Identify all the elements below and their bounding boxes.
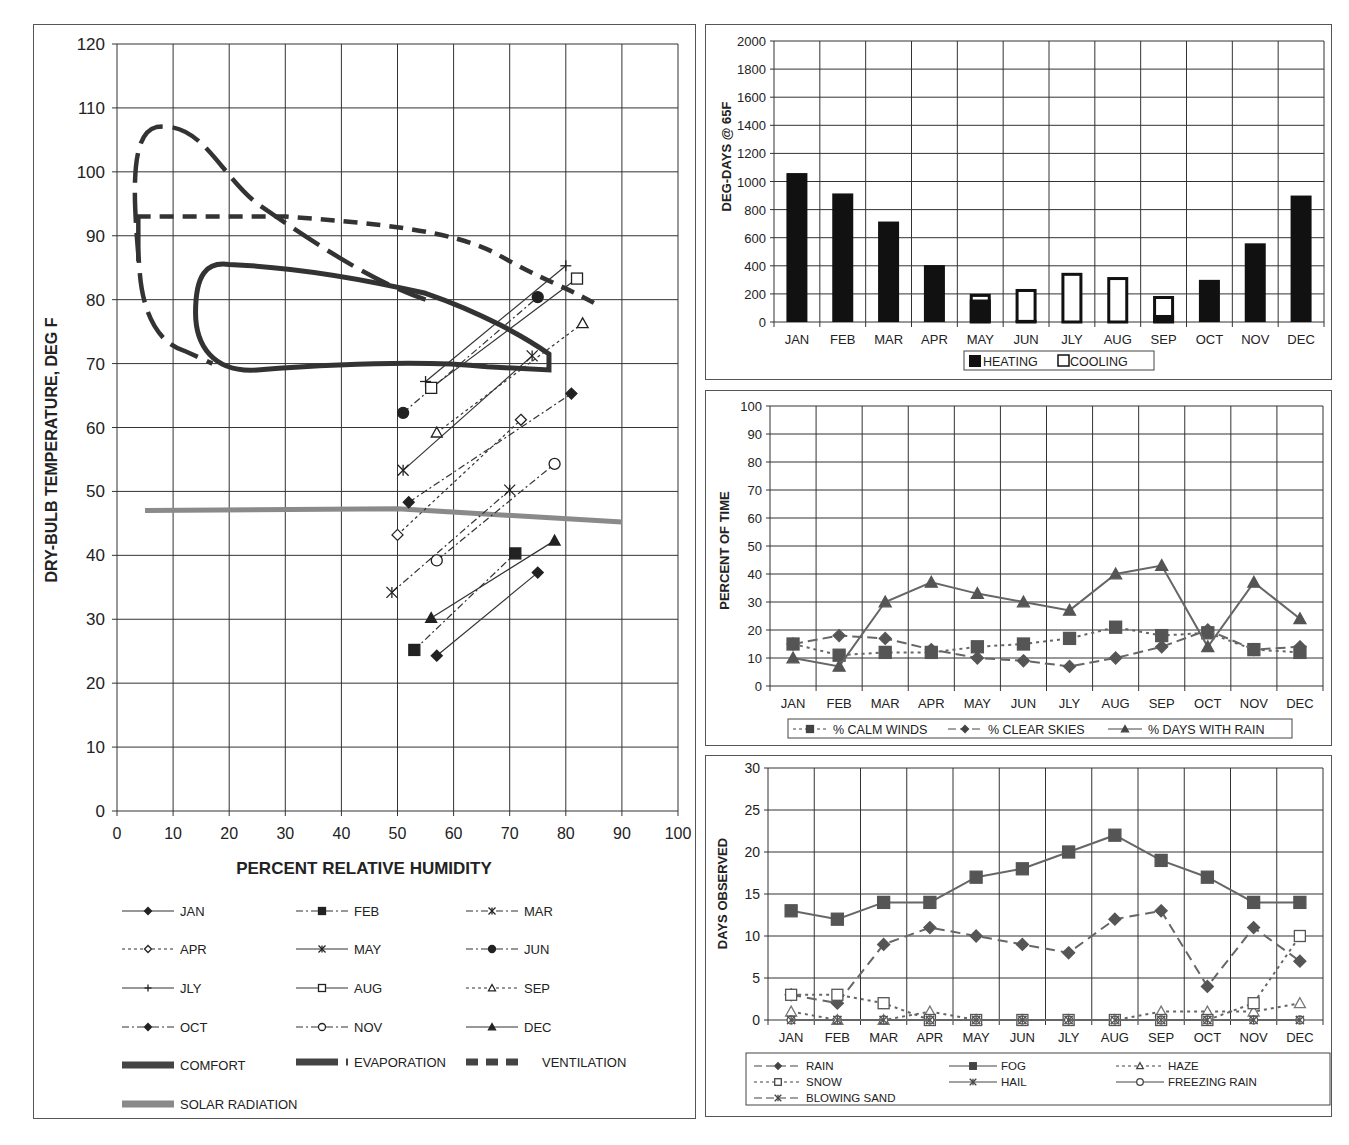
y-tick-label: 1800 [737,62,766,77]
legend-label: FEB [354,904,379,919]
square-marker-icon [970,871,982,883]
degree-days-chart-panel: 0200400600800100012001400160018002000JAN… [705,24,1332,380]
series-line [398,420,521,535]
heating-bar [878,222,899,322]
x-tick-label: 80 [557,825,575,842]
bars-y-axis-label: DEG-DAYS @ 65F [719,77,734,237]
diamond-marker-icon [392,529,403,540]
triangle-marker-icon [786,1006,797,1016]
days-observed-chart-panel: 051015202530JANFEBMARAPRMAYJUNJLYAUGSEPO… [705,755,1332,1117]
square-marker-icon [970,1063,977,1070]
bar-dec [1291,196,1312,322]
legend-item-jly: JLY [122,981,202,996]
square-marker-icon [1017,638,1029,650]
x-tick-label: APR [921,332,948,347]
legend-item-mar: MAR [466,904,553,919]
y-tick-label: 60 [748,511,762,526]
x-tick-label: APR [917,1030,944,1045]
heating-bar [1016,320,1037,322]
legend-item-dec: DEC [466,1020,551,1035]
plus-marker-icon [145,985,152,992]
x-tick-label: MAY [963,1030,991,1045]
x-tick-label: OCT [1194,696,1222,711]
legend-item-sep: SEP [466,981,550,996]
series-line [431,541,554,618]
legend-label: JLY [180,981,202,996]
star-marker-icon [504,485,515,496]
legend-label: NOV [354,1020,383,1035]
y-tick-label: 50 [748,539,762,554]
bar-apr [924,265,945,322]
circle-marker-icon [549,458,560,469]
x-tick-label: 70 [501,825,519,842]
x-tick-label: DEC [1286,1030,1313,1045]
y-tick-label: 30 [86,610,105,629]
square-marker-icon [1110,621,1122,633]
y-tick-label: 50 [86,482,105,501]
square-marker-icon [832,989,843,1000]
square-marker-icon [426,382,437,393]
star-marker-icon [386,587,397,598]
y-tick-label: 30 [748,595,762,610]
triangle-marker-icon [787,652,799,663]
y-tick-label: 0 [759,315,766,330]
square-marker-icon [572,273,583,284]
x-tick-label: JAN [781,696,806,711]
triangle-marker-icon [1294,998,1305,1008]
x-tick-label: APR [918,696,945,711]
square-marker-icon [1156,630,1168,642]
days-observed-chart: 051015202530JANFEBMARAPRMAYJUNJLYAUGSEPO… [706,756,1333,1118]
x-tick-label: MAY [967,332,995,347]
square-marker-icon [971,641,983,653]
square-marker-icon [1063,846,1075,858]
heating-bar [924,265,945,322]
heating-bar [970,300,991,322]
days-y-axis-label: DAYS OBSERVED [715,814,730,974]
square-marker-icon [785,905,797,917]
y-tick-label: 70 [748,483,762,498]
legend-item-nov: NOV [296,1020,383,1035]
circle-marker-icon [1137,1079,1144,1086]
x-tick-label: AUG [1101,1030,1129,1045]
legend-label: SEP [524,981,550,996]
legend-item-evaporation: EVAPORATION [296,1055,446,1070]
legend-label: FOG [1001,1060,1026,1072]
legend-item-jun: JUN [466,942,549,957]
y-tick-label: 1600 [737,90,766,105]
x-tick-label: FEB [826,696,851,711]
x-tick-label: AUG [1102,696,1130,711]
x-tick-label: MAR [871,696,900,711]
comfort-zone-curve [196,264,549,370]
series-line [426,266,566,382]
legend-label: % DAYS WITH RAIN [1148,723,1264,737]
x-tick-label: JUN [1011,696,1036,711]
heating-swatch-icon [969,355,981,367]
square-marker-icon [775,1079,782,1086]
main-x-axis-label: PERCENT RELATIVE HUMIDITY [194,859,534,879]
diamond-marker-icon [145,946,152,953]
diamond-marker-icon [1156,641,1168,653]
square-marker-icon [510,548,521,559]
y-tick-label: 10 [744,928,760,944]
square-marker-icon [1109,829,1121,841]
legend-item-ventilation: VENTILATION [466,1055,626,1070]
square-marker-icon [878,896,890,908]
x-tick-label: 60 [445,825,463,842]
x-tick-label: 20 [220,825,238,842]
legend-item-oct: OCT [122,1020,208,1035]
legend-label: % CALM WINDS [833,723,927,737]
diamond-marker-icon [145,1024,152,1031]
bioclimatic-chart-panel: 0102030405060708090100010203040506070809… [33,24,696,1119]
y-tick-label: 0 [96,802,105,821]
cooling-swatch-icon [1058,355,1069,366]
square-marker-icon [878,998,889,1009]
x-tick-label: OCT [1196,332,1224,347]
square-marker-icon [319,985,326,992]
series-feb [409,548,521,656]
y-tick-label: 15 [744,886,760,902]
x-tick-label: SEP [1148,1030,1174,1045]
star-marker-icon [527,350,538,361]
y-tick-label: 1400 [737,118,766,133]
diamond-marker-icon [1110,652,1122,664]
legend-label: AUG [354,981,382,996]
